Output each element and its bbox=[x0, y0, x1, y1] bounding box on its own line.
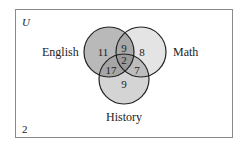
region-english-history: 17 bbox=[106, 64, 118, 76]
region-math-only: 8 bbox=[139, 46, 145, 58]
region-history-only: 9 bbox=[121, 78, 127, 90]
outside-count: 2 bbox=[22, 123, 28, 135]
region-english-only: 11 bbox=[98, 46, 109, 58]
universe-label: U bbox=[22, 16, 31, 28]
region-english-math: 9 bbox=[121, 42, 127, 54]
english-label: English bbox=[42, 45, 79, 59]
math-label: Math bbox=[173, 45, 198, 59]
venn-diagram: U 2 English Math History 11 9 8 2 17 7 9 bbox=[0, 0, 245, 143]
region-all-three: 2 bbox=[121, 54, 127, 66]
region-math-history: 7 bbox=[134, 64, 140, 76]
history-label: History bbox=[106, 110, 142, 124]
